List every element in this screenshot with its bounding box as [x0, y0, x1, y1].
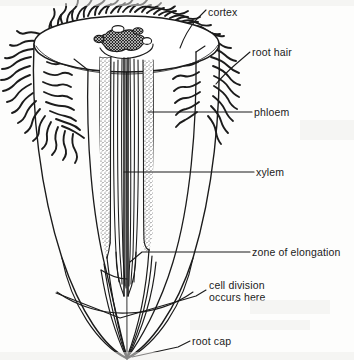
- phloem-strip-right: [142, 58, 154, 254]
- phloem-strip-left: [99, 57, 111, 258]
- root-diagram: cortex root hair phloem xylem zone of el…: [0, 0, 354, 360]
- label-cell-division-line1: cell division: [209, 279, 265, 291]
- root-diagram-svg: [0, 0, 354, 360]
- label-root-hair: root hair: [252, 46, 292, 58]
- label-phloem: phloem: [254, 106, 289, 118]
- label-cell-division-line2: occurs here: [209, 291, 266, 303]
- label-xylem: xylem: [256, 166, 284, 178]
- xylem-strand: [114, 58, 139, 288]
- label-zone-of-elongation: zone of elongation: [252, 246, 341, 258]
- root-axis: [127, 72, 128, 358]
- label-root-cap: root cap: [192, 335, 231, 347]
- label-cortex: cortex: [208, 6, 238, 18]
- division-boundary: [57, 292, 127, 313]
